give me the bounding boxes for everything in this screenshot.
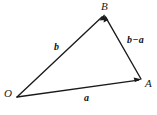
vector-b-arrowhead — [100, 14, 105, 20]
vertex-label-A: A — [145, 78, 152, 89]
vector-diagram — [0, 0, 157, 115]
vector-label-a: a — [84, 93, 89, 103]
vector-label-b: b — [54, 42, 59, 52]
vertex-label-B: B — [101, 1, 108, 12]
vertex-label-O: O — [4, 88, 12, 99]
vector-label-b-minus-a: b−a — [127, 35, 144, 45]
vector-b-group — [17, 14, 105, 97]
vector-a-line — [17, 80, 139, 97]
vector-b-minus-a-line — [106, 17, 141, 79]
vector-b-line — [17, 17, 102, 97]
vector-b-minus-a-group — [104, 14, 141, 79]
vector-triangle-figure: B A O b a b−a — [0, 0, 157, 115]
